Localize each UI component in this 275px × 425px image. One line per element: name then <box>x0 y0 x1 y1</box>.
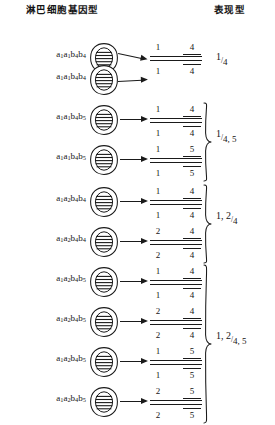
lymphocyte-row: a1a2b4b42424 <box>0 222 275 262</box>
haplotype-fraction: 1515 <box>150 142 202 180</box>
haplotype-fraction: 1414 <box>150 264 202 302</box>
arrow-right-icon <box>120 158 148 162</box>
fraction-denominator: 15 <box>150 368 202 381</box>
denominator-right: 5 <box>182 168 202 179</box>
lymphocyte-cell-icon <box>88 104 120 136</box>
fraction-numerator: 14 <box>150 102 202 115</box>
numerator-right: 4 <box>182 104 202 115</box>
genotype-label: a1a2b4b5 <box>0 273 86 283</box>
fraction-bar-upper <box>150 118 202 119</box>
haplotype-fraction: 1414 <box>150 184 202 222</box>
lymphocyte-row: a1a2b4b51414 <box>0 262 275 302</box>
genotype-label-box: a1a2b4b5 <box>0 342 86 382</box>
fraction-denominator: 14 <box>150 208 202 221</box>
lymphocyte-cell-icon <box>88 226 120 258</box>
genotype-column-header: 淋巴细胞基因型 <box>26 2 99 16</box>
fraction-denominator: 14 <box>150 288 202 301</box>
genotype-label-box: a1a2b4b5 <box>0 382 86 422</box>
denominator-left: 1 <box>150 128 166 139</box>
arrow-right-icon <box>120 320 148 324</box>
denominator-right: 4 <box>182 290 202 301</box>
lymphocyte-row: a1a1b4b4 <box>0 60 275 100</box>
genotype-label-box: a1a2b4b4 <box>0 222 86 262</box>
numerator-left: 1 <box>150 42 166 53</box>
denominator-left: 2 <box>150 410 166 421</box>
phenotype-denominator: 4, 5 <box>233 336 247 346</box>
denominator-right: 4 <box>182 128 202 139</box>
denominator-left: 1 <box>150 290 166 301</box>
numerator-right: 4 <box>182 186 202 197</box>
arrow-right-icon <box>120 200 148 204</box>
genotype-label: a1a1b4b4 <box>0 49 86 59</box>
arrow-right-icon <box>120 118 148 122</box>
numerator-left: 1 <box>150 186 166 197</box>
fraction-numerator: 14 <box>150 40 202 53</box>
fraction-bar-lower <box>150 204 202 205</box>
lymphocyte-row: a1a2b4b51515 <box>0 342 275 382</box>
fraction-numerator: 15 <box>150 142 202 155</box>
denominator-left: 2 <box>150 330 166 341</box>
numerator-left: 1 <box>150 104 166 115</box>
phenotype-denominator: 4 <box>223 57 228 67</box>
fraction-numerator: 15 <box>150 344 202 357</box>
denominator-left: 2 <box>150 250 166 261</box>
genotype-label-box: a1a1b4b4 <box>0 60 86 100</box>
fraction-bar-lower <box>150 284 202 285</box>
numerator-right: 4 <box>182 42 202 53</box>
numerator-left: 2 <box>150 386 166 397</box>
lymphocyte-cell-icon <box>88 64 120 96</box>
fraction-denominator: 24 <box>150 248 202 261</box>
numerator-left: 2 <box>150 226 166 237</box>
fraction-bar-upper <box>150 280 202 281</box>
numerator-left: 1 <box>150 346 166 357</box>
genotype-label-box: a1a1b4b5 <box>0 140 86 180</box>
fraction-numerator: 14 <box>150 264 202 277</box>
numerator-right: 5 <box>182 346 202 357</box>
phenotype-label: 1/4 <box>216 51 228 67</box>
curly-brace-icon <box>202 264 213 424</box>
fraction-bar-lower <box>150 404 202 405</box>
fraction-bar-upper <box>150 56 202 57</box>
fraction-bar-lower <box>150 122 202 123</box>
genotype-label: a1a1b4b5 <box>0 111 86 121</box>
fraction-numerator: 24 <box>150 224 202 237</box>
genotype-label: a1a1b4b5 <box>0 151 86 161</box>
numerator-right: 5 <box>182 144 202 155</box>
denominator-left: 1 <box>150 210 166 221</box>
genotype-label-box: a1a2b4b5 <box>0 302 86 342</box>
lymphocyte-cell-icon <box>88 144 120 176</box>
fraction-numerator: 14 <box>150 184 202 197</box>
fraction-bar-upper <box>150 240 202 241</box>
genotype-label: a1a2b4b4 <box>0 193 86 203</box>
arrow-right-icon <box>118 78 148 84</box>
denominator-left: 1 <box>150 370 166 381</box>
numerator-right: 4 <box>182 266 202 277</box>
phenotype-denominator: 4 <box>233 216 238 226</box>
fraction-bar-upper <box>150 200 202 201</box>
denominator-right: 5 <box>182 370 202 381</box>
curly-brace-icon <box>202 184 213 264</box>
phenotype-numerator: 1, 2 <box>216 210 231 221</box>
lymphocyte-cell-icon <box>88 186 120 218</box>
numerator-right: 4 <box>182 226 202 237</box>
genotype-label-box: a1a2b4b5 <box>0 262 86 302</box>
fraction-denominator: 25 <box>150 408 202 421</box>
fraction-denominator: 15 <box>150 166 202 179</box>
fraction-denominator: 24 <box>150 328 202 341</box>
lymphocyte-row: a1a1b4b51515 <box>0 140 275 180</box>
arrow-right-icon <box>120 400 148 404</box>
denominator-right: 4 <box>182 330 202 341</box>
phenotype-label: 1, 2/4, 5 <box>216 330 247 346</box>
lymphocyte-row: a1a2b4b52525 <box>0 382 275 422</box>
genotype-label: a1a2b4b5 <box>0 313 86 323</box>
denominator-left: 1 <box>150 168 166 179</box>
fraction-bar-lower <box>150 244 202 245</box>
phenotype-denominator: 4, 5 <box>223 134 237 144</box>
fraction-bar-lower <box>150 364 202 365</box>
fraction-bar-lower <box>150 162 202 163</box>
haplotype-fraction: 2424 <box>150 304 202 342</box>
numerator-left: 1 <box>150 144 166 155</box>
haplotype-fraction: 1515 <box>150 344 202 382</box>
lymphocyte-cell-icon <box>88 386 120 418</box>
haplotype-fraction: 1414 <box>150 102 202 140</box>
